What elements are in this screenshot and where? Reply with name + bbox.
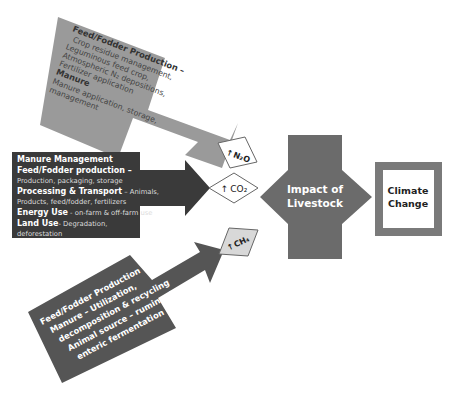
mid-line-4: Products, feed/fodder, fertilizers [17,198,127,206]
mid-line-3b: – Animals, [122,188,159,196]
mid-line-3: Processing & Transport – Animals, [17,187,159,196]
top-source-arrow: Feed/Fodder Production – Crop residue ma… [40,17,238,168]
mid-line-5a: Energy Use [17,208,69,217]
co2-label: ↑CO₂ [221,184,248,194]
climate-line-1: Climate [388,185,429,196]
impact-of-livestock: Impact of Livestock [260,135,372,259]
climate-change-box: Climate Change [375,162,442,236]
impact-line-1: Impact of [287,183,344,195]
mid-line-2: Production, packaging, storage [17,177,123,185]
bottom-source-arrow: Feed/Fodder Production Manure – Utilizat… [28,242,224,383]
co2-badge: ↑CO₂ [209,173,258,203]
ch4-badge: ↑CH₄ [219,228,258,256]
co2-arrow-icon: ↑ [221,184,229,194]
mid-line-5: Energy Use - on-farm & off-farm use [17,208,152,217]
mid-line-6a: Land Use [17,219,59,228]
impact-line-2: Livestock [287,197,344,209]
climate-line-2: Change [388,198,428,209]
mid-line-7: deforestation [17,230,62,238]
mid-line-3a: Processing & Transport [17,187,122,196]
mid-line-0: Manure Management [17,155,113,164]
diagram-canvas: Feed/Fodder Production – Crop residue ma… [0,0,452,397]
mid-line-1: Feed/Fodder production – [17,166,132,175]
mid-line-5b: - on-farm & off-farm use [68,209,153,217]
middle-source-arrow: Manure Management Feed/Fodder production… [12,152,210,238]
n2o-badge: ↑N₂O [218,137,257,168]
mid-line-6: Land Use- Degradation, [17,219,107,228]
co2-text: CO₂ [230,184,247,194]
mid-line-6b: - Degradation, [58,220,107,228]
